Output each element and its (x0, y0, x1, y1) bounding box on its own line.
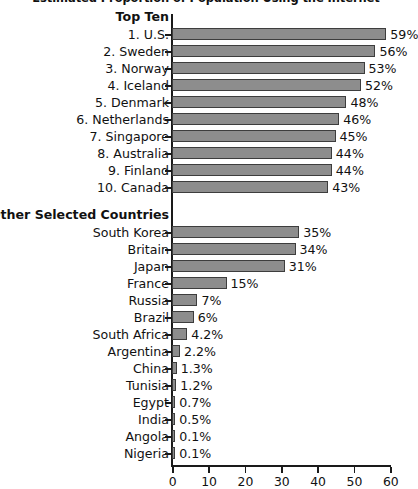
category-tick (165, 68, 172, 70)
x-axis-tick (245, 467, 247, 473)
bar-value-label: 43% (332, 179, 360, 196)
category-tick (165, 249, 172, 251)
bar (172, 79, 361, 91)
category-tick (165, 34, 172, 36)
bar-value-label: 34% (300, 241, 328, 258)
bar (172, 345, 180, 357)
category-tick (165, 351, 172, 353)
category-tick (165, 85, 172, 87)
x-axis-tick-label: 60 (376, 474, 406, 489)
bar-row: China1.3% (0, 360, 412, 377)
bar-value-label: 31% (289, 258, 317, 275)
x-axis-tick-label: 10 (194, 474, 224, 489)
category-label: Brazil (134, 309, 169, 326)
category-label: China (133, 360, 169, 377)
category-tick (165, 266, 172, 268)
bar-value-label: 1.3% (181, 360, 213, 377)
bar-value-label: 59% (390, 26, 418, 43)
category-label: 2. Sweden (103, 43, 169, 60)
bar (172, 96, 346, 108)
x-axis-tick (281, 467, 283, 473)
bar-row: South Korea35% (0, 224, 412, 241)
category-label: South Korea (93, 224, 169, 241)
bar-row: 8. Australia44% (0, 145, 412, 162)
bar-value-label: 0.5% (179, 411, 211, 428)
bar-row: Brazil6% (0, 309, 412, 326)
category-label: 9. Finland (108, 162, 169, 179)
bar-row: Tunisia1.2% (0, 377, 412, 394)
bar (172, 243, 296, 255)
bar (172, 413, 175, 425)
bar-row: 5. Denmark48% (0, 94, 412, 111)
category-tick (165, 334, 172, 336)
x-axis-tick-label: 20 (230, 474, 260, 489)
bar-row: South Africa4.2% (0, 326, 412, 343)
bar (172, 430, 175, 442)
category-label: 1. U.S. (128, 26, 169, 43)
x-axis-tick (172, 467, 174, 473)
category-label: 8. Australia (97, 145, 169, 162)
category-label: Egypt (133, 394, 169, 411)
x-axis-tick-label: 30 (267, 474, 297, 489)
bar-row: 3. Norway53% (0, 60, 412, 77)
category-tick (165, 119, 172, 121)
bar-row: Angola0.1% (0, 428, 412, 445)
category-tick (165, 300, 172, 302)
bar-value-label: 0.1% (179, 428, 211, 445)
bar (172, 379, 176, 391)
x-axis-tick (354, 467, 356, 473)
bar-row: 1. U.S.59% (0, 26, 412, 43)
bar-value-label: 6% (198, 309, 218, 326)
bar-value-label: 44% (336, 162, 364, 179)
category-label: Britain (128, 241, 169, 258)
category-label: Argentina (108, 343, 169, 360)
bar-value-label: 45% (340, 128, 368, 145)
bar (172, 277, 227, 289)
bar-value-label: 46% (343, 111, 371, 128)
category-tick (165, 136, 172, 138)
category-label: 7. Singapore (89, 128, 169, 145)
bar (172, 113, 339, 125)
category-label: 3. Norway (105, 60, 169, 77)
bar (172, 260, 285, 272)
bar-value-label: 53% (369, 60, 397, 77)
category-tick (165, 170, 172, 172)
bar-value-label: 56% (379, 43, 407, 60)
x-axis-tick (317, 467, 319, 473)
bar (172, 396, 175, 408)
category-label: South Africa (92, 326, 169, 343)
bar (172, 147, 332, 159)
bar-row: Britain34% (0, 241, 412, 258)
bar-row: France15% (0, 275, 412, 292)
category-label: Tunisia (126, 377, 169, 394)
bar-row: 10. Canada43% (0, 179, 412, 196)
category-tick (165, 317, 172, 319)
x-axis-tick-label: 0 (158, 474, 188, 489)
bar-row: Egypt0.7% (0, 394, 412, 411)
category-label: 10. Canada (97, 179, 169, 196)
category-tick (165, 385, 172, 387)
x-axis-tick (390, 467, 392, 473)
category-label: Japan (134, 258, 169, 275)
bar-row: India0.5% (0, 411, 412, 428)
category-tick (165, 51, 172, 53)
category-tick (165, 368, 172, 370)
category-label: 4. Iceland (107, 77, 169, 94)
category-tick (165, 436, 172, 438)
bar (172, 362, 177, 374)
bar-value-label: 48% (350, 94, 378, 111)
bar (172, 447, 175, 459)
bar-row: 4. Iceland52% (0, 77, 412, 94)
category-tick (165, 102, 172, 104)
category-label: 5. Denmark (95, 94, 169, 111)
bar (172, 181, 328, 193)
x-axis-tick (208, 467, 210, 473)
group-heading-1: Top Ten (116, 8, 169, 25)
bar-row: 9. Finland44% (0, 162, 412, 179)
bar (172, 226, 299, 238)
bar-value-label: 1.2% (180, 377, 212, 394)
category-tick (165, 187, 172, 189)
bar (172, 294, 197, 306)
bar (172, 45, 375, 57)
